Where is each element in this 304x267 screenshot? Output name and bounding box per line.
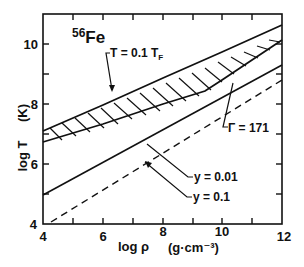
x-tick-label: 10: [215, 224, 229, 239]
y-tick-label: 8: [31, 97, 38, 112]
plot-frame: [43, 14, 282, 224]
annotation-y-0.1: y = 0.1: [193, 190, 230, 204]
y-tick-label: 6: [31, 157, 38, 172]
x-tick-labels: 4 6 8 10 12: [39, 224, 291, 244]
x-tick-label: 12: [277, 229, 291, 244]
x-axis-unit: (g·cm⁻³): [168, 240, 219, 255]
y-tick-labels: 4 6 8 10: [24, 37, 38, 232]
series-y-0.1-dashed: [51, 80, 282, 222]
annotation-t-0.1-tf: T = 0.1 TF: [110, 46, 163, 62]
y-axis-unit: (K): [15, 104, 30, 122]
x-tick-label: 4: [39, 229, 47, 244]
leader-y-0.1: [145, 162, 192, 197]
arrow-head: [109, 85, 115, 92]
annotation-y-0.01: y = 0.01: [194, 170, 238, 184]
element-label: 56Fe: [72, 26, 105, 47]
series-t-0.1-tf: [43, 25, 282, 131]
y-axis-ticks: [43, 44, 282, 194]
chart: 4 6 8 10 12 4 6 8 10 log ρ (g·cm⁻³) log …: [0, 0, 304, 267]
y-tick-label: 10: [24, 37, 38, 52]
x-axis-title: log ρ: [118, 239, 149, 254]
leader-y-0.01: [147, 144, 193, 177]
x-tick-label: 6: [99, 229, 106, 244]
x-tick-label: 8: [159, 224, 166, 239]
annotation-gamma: Γ = 171: [228, 121, 269, 135]
y-tick-label: 4: [30, 217, 38, 232]
y-axis-title: log T: [15, 140, 30, 171]
